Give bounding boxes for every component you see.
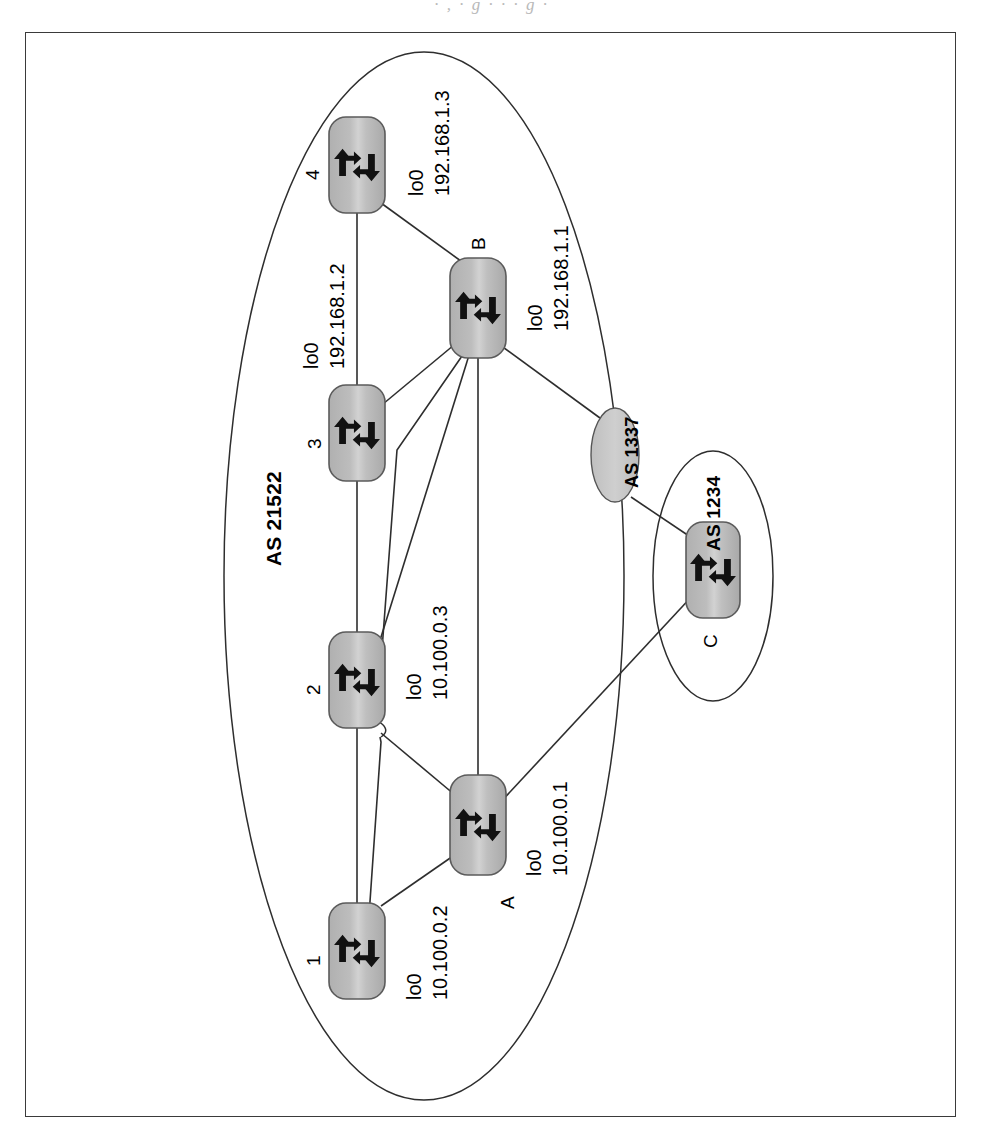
node-router-4[interactable] [329,117,385,213]
node-router-a[interactable] [450,775,506,875]
node-router-2[interactable] [329,632,385,728]
diagram-canvas: AS 21522 AS 1234 AS 1337 4 lo0 192.168.1… [0,0,983,1135]
as-21522-boundary [224,52,624,1100]
link-r4-rB [381,203,465,264]
figure-page: · , · g · · · g · [0,0,983,1135]
node-router-b[interactable] [450,258,506,358]
link-r1-rB-upper [377,356,462,716]
link-r1-rB [369,737,381,916]
link-r1-rA [381,854,456,906]
node-router-1[interactable] [329,903,385,999]
network-topology-svg [0,0,983,1135]
link-rA-rC [497,594,694,806]
node-router-c[interactable] [686,522,740,618]
node-router-3[interactable] [329,385,385,481]
link-rB-as1337 [500,345,600,418]
node-as1337-cloud[interactable] [591,408,639,502]
link-r2-rA [381,733,455,795]
link-layer [357,203,694,916]
link-as1337-rC [631,497,692,538]
